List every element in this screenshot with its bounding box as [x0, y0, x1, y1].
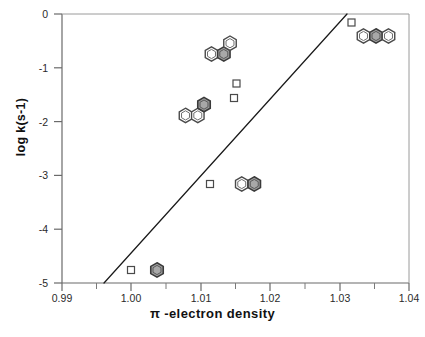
molecule-marker-naphthalene [236, 177, 261, 191]
y-tick-label: 0 [18, 8, 48, 20]
x-tick-label: 1.01 [181, 292, 221, 304]
plot-axes [62, 14, 409, 283]
x-minor-ticks [97, 283, 375, 289]
molecule-marker-anthracene [357, 29, 394, 43]
data-point-square [231, 95, 238, 102]
x-tick-label: 1.02 [250, 292, 290, 304]
y-tick-label: -1 [18, 62, 48, 74]
y-tick-label: -4 [18, 223, 48, 235]
x-tick-label: 0.99 [42, 292, 82, 304]
x-tick-label: 1.03 [320, 292, 360, 304]
molecule-marker-phenanthrene-isomer [205, 36, 236, 61]
x-axis-title: π -electron density [0, 306, 425, 321]
data-point-square [348, 19, 355, 26]
x-tick-label: 1.04 [389, 292, 425, 304]
data-point-square [207, 181, 214, 188]
y-axis-title: log k(s-1) [14, 82, 28, 172]
data-point-square [233, 80, 240, 87]
scatter-plot-canvas [0, 0, 425, 337]
molecule-marker-phenanthrene [179, 97, 210, 122]
chart-figure: 0.99 1.00 1.01 1.02 1.03 1.04 0 -1 -2 -3… [0, 0, 425, 337]
data-point-square [128, 267, 135, 274]
y-major-ticks [54, 14, 62, 283]
square-markers [128, 19, 356, 274]
molecule-marker-benzene [151, 263, 163, 277]
y-tick-label: -5 [18, 277, 48, 289]
x-tick-label: 1.00 [111, 292, 151, 304]
